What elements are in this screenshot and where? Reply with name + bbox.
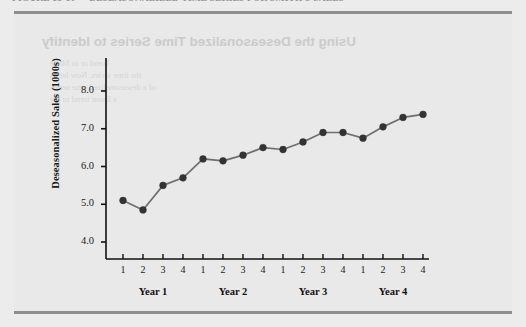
- x-tick-label: 3: [396, 264, 410, 275]
- x-tick-label: 2: [216, 264, 230, 275]
- axes: [101, 58, 429, 259]
- figure-rule-bottom: [14, 311, 512, 314]
- line-chart: Deseasonalized Sales (1000s) 4.05.06.07.…: [14, 14, 512, 311]
- x-tick-label: 4: [336, 264, 350, 275]
- chart-panel: Using the Deseasonalized Time Series to …: [14, 14, 512, 311]
- x-tick-label: 1: [276, 264, 290, 275]
- x-tick-label: 4: [176, 264, 190, 275]
- y-tick-label: 4.0: [60, 235, 94, 246]
- x-tick-label: 1: [196, 264, 210, 275]
- figure-caption-title: DESEASONALIZED TIME SERIES FOR SMITH'S S…: [89, 0, 344, 3]
- x-tick-label: 4: [256, 264, 270, 275]
- y-tick-label: 8.0: [60, 84, 94, 95]
- x-tick-label: 4: [416, 264, 430, 275]
- year-group-label: Year 4: [363, 286, 423, 297]
- x-tick-label: 2: [136, 264, 150, 275]
- figure-caption: FIGURE 15-10DESEASONALIZED TIME SERIES F…: [0, 0, 526, 7]
- x-tick-label: 2: [296, 264, 310, 275]
- year-group-label: Year 1: [123, 286, 183, 297]
- year-group-label: Year 2: [203, 286, 263, 297]
- x-tick-label: 1: [356, 264, 370, 275]
- y-tick-label: 5.0: [60, 197, 94, 208]
- y-tick-label: 6.0: [60, 160, 94, 171]
- x-tick-label: 1: [116, 264, 130, 275]
- year-group-label: Year 3: [283, 286, 343, 297]
- x-tick-label: 2: [376, 264, 390, 275]
- figure-block: FIGURE 15-10DESEASONALIZED TIME SERIES F…: [0, 0, 526, 327]
- y-axis-title: Deseasonalized Sales (1000s): [50, 39, 61, 209]
- x-tick-label: 3: [156, 264, 170, 275]
- x-tick-label: 3: [236, 264, 250, 275]
- data-series: [120, 111, 427, 213]
- figure-caption-number: FIGURE 15-10: [12, 0, 75, 3]
- y-tick-label: 7.0: [60, 122, 94, 133]
- x-tick-label: 3: [316, 264, 330, 275]
